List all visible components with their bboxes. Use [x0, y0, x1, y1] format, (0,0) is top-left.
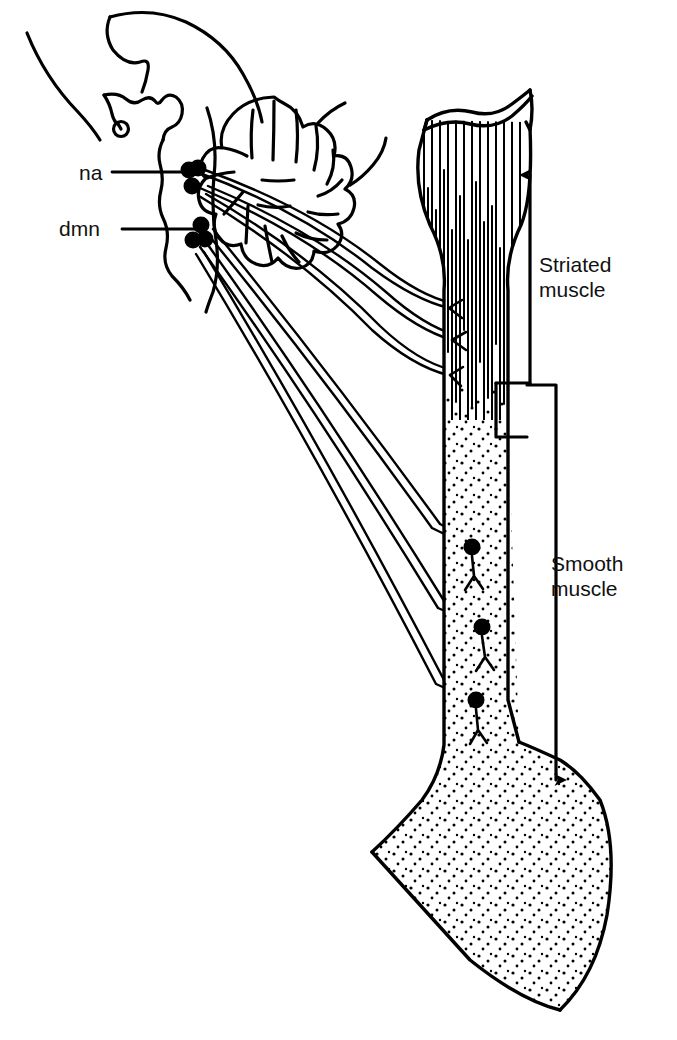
dorsal-motor-nucleus-neurons [185, 217, 214, 249]
na-soma-3 [184, 178, 201, 195]
brainstem-outline [159, 108, 217, 312]
label-striated-muscle: Striated muscle [539, 252, 611, 302]
vagal-innervation-diagram [0, 0, 677, 1040]
label-na: na [79, 160, 102, 185]
label-dmn: dmn [59, 216, 100, 241]
esophagus-stomach-outline [372, 90, 611, 1010]
label-smooth-muscle: Smooth muscle [551, 551, 623, 601]
leader-lines [112, 172, 196, 229]
brain-structures [104, 94, 182, 140]
